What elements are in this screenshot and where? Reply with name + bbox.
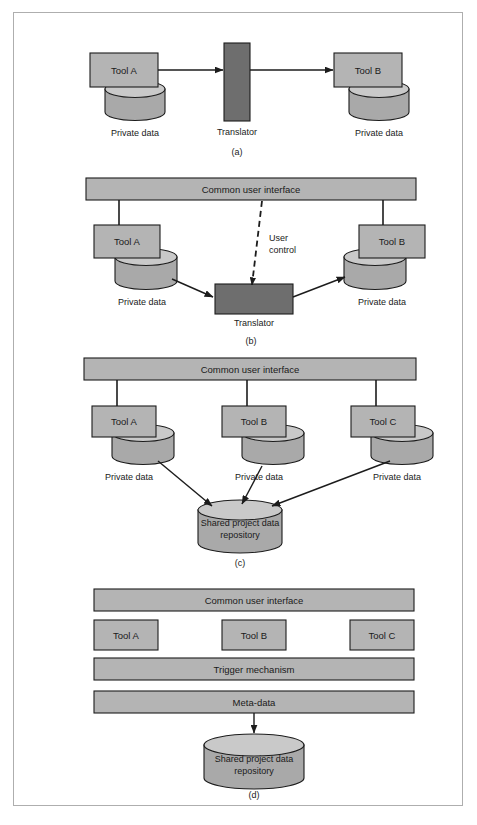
panel-d-meta-data-label: Meta-data <box>233 697 276 708</box>
panel-d-trigger-mechanism-label: Trigger mechanism <box>214 664 295 675</box>
panel-c-tool-c-label: Tool C <box>370 416 397 427</box>
panel-b-tool-b-data-label: Private data <box>358 297 406 307</box>
panel-d-tool-c-label: Tool C <box>369 630 396 641</box>
panel-a: Tool A Private data Translator Tool B Pr… <box>90 43 409 157</box>
panel-a-caption: (a) <box>232 147 243 157</box>
panel-c-tool-b-data-label: Private data <box>235 472 283 482</box>
panel-a-translator-box[interactable] <box>224 43 250 121</box>
panel-b-user-control-dashed-line <box>252 201 262 285</box>
panel-c-shared-repository-label-line2: repository <box>220 530 260 540</box>
figure-frame: Tool A Private data Translator Tool B Pr… <box>13 12 463 806</box>
panel-b-translator-box[interactable] <box>215 284 293 314</box>
panel-b-common-user-interface-label: Common user interface <box>202 184 301 195</box>
panel-b-tool-b-label: Tool B <box>379 236 405 247</box>
panel-b-tool-a-label: Tool A <box>114 236 141 247</box>
panel-d-common-user-interface-label: Common user interface <box>205 595 304 606</box>
panel-d-tool-b-label: Tool B <box>241 630 267 641</box>
panel-c-tool-c-data-label: Private data <box>373 472 421 482</box>
panel-b-caption: (b) <box>246 336 257 346</box>
panel-d-caption: (d) <box>249 790 260 800</box>
panel-b-user-control-label-line2: control <box>269 245 296 255</box>
panel-a-tool-b-label: Tool B <box>355 65 381 76</box>
panel-b: Common user interface Tool A Private dat… <box>86 178 425 346</box>
panel-b-tool-a-data-label: Private data <box>118 297 166 307</box>
panel-c-common-user-interface-label: Common user interface <box>201 364 300 375</box>
panel-c: Common user interface Tool A Private dat… <box>84 358 433 568</box>
panel-b-translator-label: Translator <box>234 318 274 328</box>
integration-architecture-diagram: Tool A Private data Translator Tool B Pr… <box>14 13 462 805</box>
panel-d-tool-a-label: Tool A <box>113 630 140 641</box>
panel-c-tool-a-data-label: Private data <box>105 472 153 482</box>
panel-b-arrow-translator-to-datab <box>293 277 345 297</box>
panel-c-caption: (c) <box>235 558 246 568</box>
panel-d: Common user interface Tool A Tool B Tool… <box>94 589 414 800</box>
panel-c-tool-a-label: Tool A <box>111 416 138 427</box>
panel-b-user-control-label-line1: User <box>269 233 288 243</box>
panel-c-shared-repository-label-line1: Shared project data <box>201 518 280 528</box>
panel-a-tool-b-data-label: Private data <box>355 128 403 138</box>
panel-c-tool-b-label: Tool B <box>241 416 267 427</box>
panel-c-arrow-c-to-repository <box>272 461 390 506</box>
panel-a-tool-a-data-label: Private data <box>111 128 159 138</box>
panel-a-translator-label: Translator <box>217 127 257 137</box>
panel-a-tool-a-label: Tool A <box>111 65 138 76</box>
panel-d-shared-repository-label-line1: Shared project data <box>215 754 294 764</box>
panel-d-shared-repository-label-line2: repository <box>234 766 274 776</box>
panel-b-arrow-dataa-to-translator <box>172 279 213 297</box>
panel-c-arrow-a-to-repository <box>158 461 212 506</box>
